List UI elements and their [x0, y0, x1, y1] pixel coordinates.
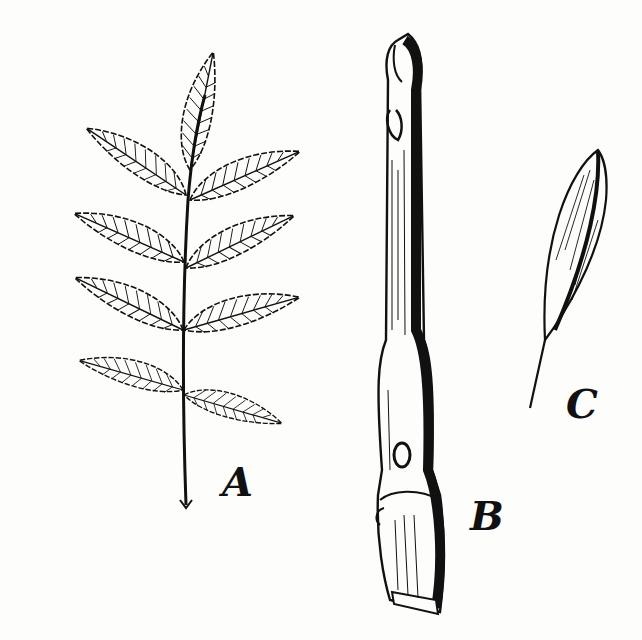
label-a: A: [222, 462, 253, 502]
twig-drawing: [377, 34, 444, 614]
label-b: B: [470, 496, 504, 536]
compound-leaf-drawing: [69, 49, 306, 508]
label-c: C: [566, 384, 598, 424]
samara-drawing: [530, 150, 607, 408]
illustration-canvas: [0, 0, 642, 640]
botanical-figure: A B C: [0, 0, 642, 640]
